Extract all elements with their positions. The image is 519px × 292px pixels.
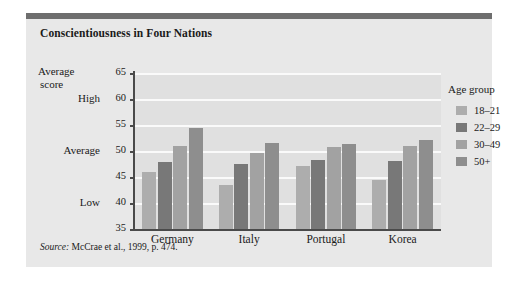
y-axis-title-line1: Average xyxy=(38,65,110,78)
bar xyxy=(142,172,156,229)
y-axis-word-label: Average xyxy=(30,144,100,156)
legend-entry-label: 18–21 xyxy=(474,105,500,116)
legend-entry-label: 22–29 xyxy=(474,122,500,133)
y-axis-tick xyxy=(130,177,134,179)
legend-entry: 50+ xyxy=(456,153,519,170)
x-axis-tick-label: Korea xyxy=(343,233,463,245)
x-axis-line xyxy=(133,229,441,231)
y-axis-tick-label: 45 xyxy=(104,170,126,181)
y-axis-title-line2: score xyxy=(38,78,110,91)
legend: Age group 18–2122–2930–4950+ xyxy=(446,83,519,170)
bar xyxy=(173,146,187,229)
bar xyxy=(372,180,386,229)
legend-entry: 22–29 xyxy=(456,119,519,136)
y-axis-word-label: High xyxy=(30,92,100,104)
bar xyxy=(388,161,402,229)
source-label: Source: xyxy=(40,242,69,252)
bar xyxy=(219,185,233,229)
bar xyxy=(419,140,433,229)
y-axis-tick xyxy=(130,229,134,231)
source-note: Source: McCrae et al., 1999, p. 474. xyxy=(40,242,178,252)
legend-entries: 18–2122–2930–4950+ xyxy=(446,102,519,170)
plot-area: GermanyItalyPortugalKorea xyxy=(134,73,441,229)
bar xyxy=(234,164,248,229)
y-axis-tick-label: 65 xyxy=(104,66,126,77)
legend-entry-label: 50+ xyxy=(474,156,490,167)
y-axis-tick xyxy=(130,203,134,205)
y-axis-tick-label: 55 xyxy=(104,118,126,129)
y-axis-tick-label: 40 xyxy=(104,196,126,207)
y-axis-tick xyxy=(130,99,134,101)
y-axis-tick-label: 35 xyxy=(104,222,126,233)
legend-swatch xyxy=(456,140,467,149)
legend-swatch xyxy=(456,123,467,132)
legend-swatch xyxy=(456,106,467,115)
y-axis-title: Average score xyxy=(38,65,110,91)
figure-card: Conscientiousness in Four Nations Averag… xyxy=(26,13,492,267)
legend-entry: 30–49 xyxy=(456,136,519,153)
bar xyxy=(403,146,417,229)
gridline xyxy=(134,99,441,101)
page-title: Conscientiousness in Four Nations xyxy=(40,27,212,39)
gridline xyxy=(134,73,441,75)
y-axis-word-label: Low xyxy=(30,196,100,208)
gridline xyxy=(134,125,441,127)
bar xyxy=(342,144,356,229)
legend-title: Age group xyxy=(448,83,519,95)
y-axis-tick-label: 50 xyxy=(104,144,126,155)
bar xyxy=(265,143,279,229)
bar xyxy=(296,166,310,229)
y-axis-tick-label: 60 xyxy=(104,92,126,103)
bar xyxy=(311,160,325,229)
source-citation: McCrae et al., 1999, p. 474. xyxy=(72,242,178,252)
top-rule-divider xyxy=(26,13,492,19)
bar xyxy=(327,147,341,229)
legend-swatch xyxy=(456,157,467,166)
bar xyxy=(250,153,264,229)
legend-entry-label: 30–49 xyxy=(474,139,500,150)
y-axis-tick xyxy=(130,73,134,75)
bar xyxy=(158,162,172,229)
y-axis-tick xyxy=(130,151,134,153)
bar xyxy=(189,128,203,229)
y-axis-tick xyxy=(130,125,134,127)
legend-entry: 18–21 xyxy=(456,102,519,119)
